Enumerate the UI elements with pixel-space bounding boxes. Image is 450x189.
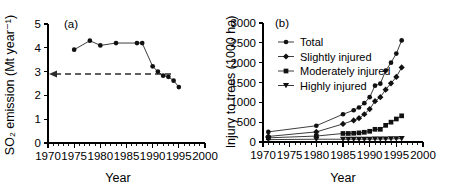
data-point: [346, 131, 351, 136]
x-tick-label: 1980: [88, 150, 114, 162]
y-tick-label: 1: [35, 113, 41, 125]
data-point: [176, 85, 181, 90]
data-point: [340, 121, 346, 127]
x-tick-label: 1990: [357, 149, 383, 161]
legend-marker-3: [284, 69, 289, 74]
data-point: [351, 108, 356, 113]
data-point: [161, 73, 166, 78]
panel-b-legend: TotalSlightly injuredModerately injuredH…: [278, 36, 391, 92]
data-point: [166, 74, 171, 79]
legend-label-1: Total: [300, 36, 323, 48]
data-point: [140, 41, 145, 46]
data-point: [357, 131, 362, 136]
data-point: [377, 94, 383, 100]
data-point: [389, 120, 394, 125]
x-tick-label: 1995: [384, 149, 410, 161]
data-point: [88, 38, 93, 43]
data-point: [378, 127, 383, 132]
data-point: [373, 127, 378, 132]
panel-b-svg: 0500100015002000250030001970197519801985…: [225, 0, 450, 189]
data-point: [357, 105, 362, 110]
x-tick-label: 1995: [166, 150, 192, 162]
data-point: [341, 131, 346, 136]
series-1: [72, 38, 181, 89]
y-tick-label: 500: [237, 116, 256, 128]
data-point: [72, 47, 77, 52]
panel-a-y-axis-title: SO₂ emission (Mt year⁻¹): [3, 15, 17, 155]
y-tick-label: 4: [35, 42, 42, 54]
panel-a-x-axis-title: Year: [105, 171, 130, 185]
legend-marker-1: [284, 40, 289, 45]
panel-a-svg: 0123451970197519801985199019952000 (a) Y…: [0, 0, 225, 189]
data-point: [394, 51, 399, 56]
x-tick-label: 1985: [330, 149, 356, 161]
x-tick-label: 1975: [277, 149, 303, 161]
y-tick-label: 0: [35, 137, 41, 149]
panel-a-axes: 0123451970197519801985199019952000: [35, 18, 218, 162]
y-tick-label: 2: [35, 89, 41, 101]
data-point: [373, 83, 378, 88]
figure-container: 0123451970197519801985199019952000 (a) Y…: [0, 0, 450, 189]
x-tick-label: 1990: [140, 150, 166, 162]
x-tick-label: 1970: [250, 149, 276, 161]
panel-b-y-axis-title: Injury to trees (1000 ha): [225, 16, 238, 149]
data-point: [135, 41, 140, 46]
y-tick-label: 0: [250, 136, 256, 148]
legend-label-3: Moderately injured: [300, 65, 391, 77]
legend-label-2: Slightly injured: [300, 51, 372, 63]
data-point: [351, 131, 356, 136]
data-point: [378, 81, 383, 86]
x-tick-label: 2000: [192, 150, 218, 162]
data-point: [394, 117, 399, 122]
x-tick-label: 1980: [304, 149, 330, 161]
panel-b-injury-to-trees: 0500100015002000250030001970197519801985…: [225, 0, 450, 189]
data-point: [156, 69, 161, 74]
data-point: [150, 64, 155, 69]
x-tick-label: 1975: [61, 150, 87, 162]
x-tick-label: 1985: [114, 150, 140, 162]
data-point: [171, 78, 176, 83]
panel-a-so2-emission: 0123451970197519801985199019952000 (a) Y…: [0, 0, 225, 189]
y-tick-label: 5: [35, 18, 41, 30]
data-point: [114, 41, 119, 46]
data-point: [98, 43, 103, 48]
data-point: [367, 95, 372, 100]
x-tick-label: 2000: [410, 149, 436, 161]
data-point: [372, 98, 378, 104]
legend-label-4: Highly injured: [300, 80, 367, 92]
panel-a-data-layer: [49, 38, 181, 89]
threshold-arrow-icon: [49, 70, 57, 77]
data-point: [383, 123, 388, 128]
data-point: [399, 38, 404, 43]
data-point: [341, 112, 346, 117]
legend-marker-2: [283, 53, 289, 59]
panel-b-label: (b): [275, 17, 289, 29]
data-point: [356, 115, 362, 121]
data-point: [362, 130, 367, 135]
data-point: [314, 123, 319, 128]
panel-b-x-axis-title: Year: [330, 171, 355, 185]
panel-a-label: (a): [64, 18, 78, 30]
data-point: [351, 117, 357, 123]
data-point: [367, 129, 372, 134]
data-point: [399, 64, 405, 70]
y-tick-label: 3: [35, 66, 41, 78]
data-point: [362, 101, 367, 106]
x-tick-label: 1970: [35, 150, 61, 162]
data-point: [399, 113, 404, 118]
